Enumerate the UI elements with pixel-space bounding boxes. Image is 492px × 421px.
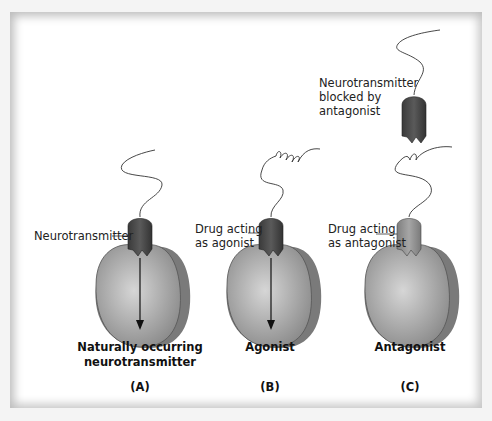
caption-c: Antagonist <box>365 340 455 355</box>
panel-letter-a: (A) <box>120 380 160 395</box>
caption-line: neurotransmitter <box>70 355 210 370</box>
panel-letter-b: (B) <box>250 380 290 395</box>
callout-line: Drug acting <box>195 222 263 236</box>
caption-a: Naturally occurring neurotransmitter <box>70 340 210 370</box>
blocked-line: antagonist <box>319 104 418 118</box>
caption-b: Agonist <box>230 340 310 355</box>
caption-line: Agonist <box>230 340 310 355</box>
receptor-b <box>226 245 321 349</box>
receptor-c <box>364 245 459 349</box>
callout-line: Drug acting <box>328 222 406 236</box>
callout-antagonist-c: Drug acting as antagonist <box>328 222 406 250</box>
receptor-a <box>95 245 190 349</box>
caption-line: Naturally occurring <box>70 340 210 355</box>
blocked-line: Neurotransmitter <box>319 76 418 90</box>
caption-line: Antagonist <box>365 340 455 355</box>
panel-letter-c: (C) <box>390 380 430 395</box>
callout-line: as antagonist <box>328 236 406 250</box>
callout-line: as agonist <box>195 236 263 250</box>
blocked-neurotransmitter-label: Neurotransmitter blocked by antagonist <box>319 76 418 118</box>
blocked-line: blocked by <box>319 90 418 104</box>
callout-agonist-b: Drug acting as agonist <box>195 222 263 250</box>
callout-neurotransmitter-a: Neurotransmitter <box>34 229 133 243</box>
